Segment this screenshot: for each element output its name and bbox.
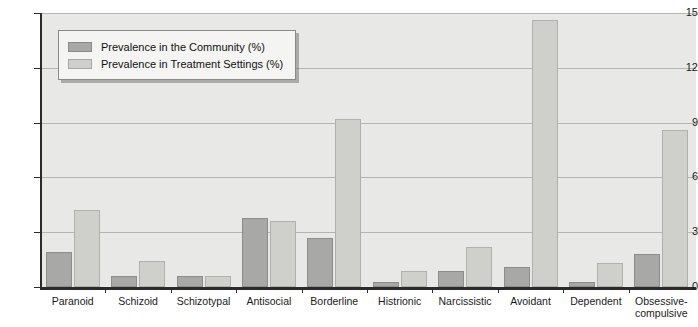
x-axis-tick-label: Schizoid: [105, 295, 170, 307]
bar-community: [373, 282, 399, 287]
bar-treatment: [74, 210, 100, 287]
legend-label-treatment: Prevalence in Treatment Settings (%): [101, 58, 283, 70]
bar-community: [307, 238, 333, 287]
bar-treatment: [205, 276, 231, 287]
bar-community: [111, 276, 137, 287]
y-axis-tick-mark: [34, 123, 40, 124]
bar-treatment: [662, 130, 688, 287]
x-axis-tick-label: Borderline: [302, 295, 367, 307]
gridline: [42, 232, 696, 233]
x-axis-line: [40, 287, 696, 290]
x-axis-tick-mark: [171, 287, 172, 293]
y-axis-tick-mark: [34, 287, 40, 288]
x-axis-tick-label: Dependent: [563, 295, 628, 307]
bar-chart: 03691215 ParanoidSchizoidSchizotypalAnti…: [0, 0, 698, 327]
bar-community: [242, 218, 268, 287]
legend-label-community: Prevalence in the Community (%): [101, 41, 265, 53]
y-axis-tick-label: 9: [666, 117, 698, 128]
bar-treatment: [532, 20, 558, 287]
bar-treatment: [401, 271, 427, 287]
bar-treatment: [466, 247, 492, 287]
x-axis-tick-mark: [367, 287, 368, 293]
x-axis-tick-mark: [302, 287, 303, 293]
x-axis-tick-label: Histrionic: [367, 295, 432, 307]
y-axis-tick-mark: [34, 232, 40, 233]
bar-community: [569, 282, 595, 287]
x-axis-tick-label: Schizotypal: [171, 295, 236, 307]
gridline: [42, 13, 696, 14]
gridline: [42, 123, 696, 124]
x-axis-tick-mark: [629, 287, 630, 293]
bar-community: [177, 276, 203, 287]
x-axis-tick-mark: [563, 287, 564, 293]
x-axis-tick-mark: [105, 287, 106, 293]
x-axis-tick-mark: [236, 287, 237, 293]
x-axis-tick-label: Narcissistic: [432, 295, 497, 307]
legend-swatch-treatment-icon: [68, 59, 92, 69]
legend-item-treatment: Prevalence in Treatment Settings (%): [68, 55, 283, 72]
gridline: [42, 177, 696, 178]
x-axis-tick-mark: [432, 287, 433, 293]
x-axis-tick-label: Avoidant: [498, 295, 563, 307]
bar-treatment: [335, 119, 361, 287]
y-axis-tick-label: 15: [666, 7, 698, 18]
x-axis-tick-label: Obsessive-compulsive: [629, 295, 694, 319]
bar-treatment: [270, 221, 296, 287]
legend-swatch-community-icon: [68, 42, 92, 52]
x-axis-tick-mark: [498, 287, 499, 293]
bar-community: [438, 271, 464, 287]
bar-community: [504, 267, 530, 287]
bar-treatment: [139, 261, 165, 287]
bar-community: [46, 252, 72, 287]
bar-treatment: [597, 263, 623, 287]
y-axis-tick-mark: [34, 68, 40, 69]
y-axis-tick-mark: [34, 13, 40, 14]
bar-community: [634, 254, 660, 287]
x-axis-tick-label: Antisocial: [236, 295, 301, 307]
legend-item-community: Prevalence in the Community (%): [68, 38, 283, 55]
y-axis-tick-mark: [34, 177, 40, 178]
y-axis-tick-label: 12: [666, 62, 698, 73]
chart-legend: Prevalence in the Community (%) Prevalen…: [58, 30, 296, 80]
x-axis-tick-label: Paranoid: [40, 295, 105, 307]
